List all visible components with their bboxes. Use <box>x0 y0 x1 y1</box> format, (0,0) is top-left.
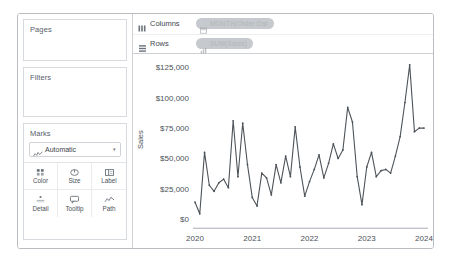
data-point[interactable] <box>356 176 358 178</box>
marks-card-title: Marks <box>24 124 126 142</box>
rows-shelf-label: Rows <box>150 39 196 48</box>
data-point[interactable] <box>414 131 416 133</box>
marks-path-button[interactable]: Path <box>92 190 126 217</box>
data-point[interactable] <box>208 184 210 186</box>
data-point[interactable] <box>352 121 354 123</box>
marks-size-button[interactable]: Size <box>58 163 92 190</box>
x-axis-tick-label: 2020 <box>186 234 204 243</box>
data-point[interactable] <box>366 166 368 168</box>
data-point[interactable] <box>304 195 306 197</box>
y-axis-tick-label: $25,000 <box>160 185 189 194</box>
rows-pill-sum-sales[interactable]: SUM(Sales) <box>196 38 253 49</box>
measure-icon <box>200 40 207 47</box>
x-axis-tick-label: 2023 <box>358 234 376 243</box>
mark-type-dropdown[interactable]: Automatic ▾ <box>29 142 121 157</box>
line-chart: $0$25,000$50,000$75,000$100,000$125,000 … <box>133 54 433 248</box>
data-point[interactable] <box>199 213 201 215</box>
data-point[interactable] <box>375 176 377 178</box>
line-chart-icon <box>33 145 43 154</box>
marks-label-button[interactable]: Label <box>92 163 126 190</box>
data-point[interactable] <box>332 143 334 145</box>
data-point[interactable] <box>266 177 268 179</box>
marks-color-button[interactable]: Color <box>24 163 58 190</box>
data-point[interactable] <box>237 176 239 178</box>
columns-pill-month-order-date[interactable]: MONTH(Order Dat <box>196 18 274 29</box>
chevron-down-icon: ▾ <box>113 147 117 152</box>
columns-shelf[interactable]: Columns MONTH(Order Dat <box>133 14 433 34</box>
columns-shelf-icon <box>138 19 147 28</box>
data-point[interactable] <box>394 155 396 157</box>
y-axis-tick-label: $125,000 <box>156 63 190 72</box>
data-point[interactable] <box>223 178 225 180</box>
detail-icon <box>34 195 48 205</box>
filters-card[interactable]: Filters <box>23 67 127 117</box>
color-icon <box>34 167 48 177</box>
data-point[interactable] <box>290 176 292 178</box>
data-point[interactable] <box>194 201 196 203</box>
mark-type-label: Automatic <box>45 146 113 153</box>
data-point[interactable] <box>261 172 263 174</box>
y-axis-title: Sales <box>136 130 145 149</box>
marks-card-empty-space <box>24 217 126 239</box>
y-axis-tick-label: $75,000 <box>160 124 189 133</box>
y-axis: $0$25,000$50,000$75,000$100,000$125,000 <box>156 63 190 224</box>
data-point[interactable] <box>328 162 330 164</box>
chart-series-line <box>194 64 425 215</box>
data-point[interactable] <box>390 172 392 174</box>
data-point[interactable] <box>380 170 382 172</box>
marks-buttons-grid: Color Size <box>24 162 126 217</box>
columns-pill-text: MONTH(Order Dat <box>210 20 268 27</box>
data-point[interactable] <box>423 127 425 129</box>
data-point[interactable] <box>418 127 420 129</box>
rows-shelf-icon <box>138 39 147 48</box>
data-point[interactable] <box>385 168 387 170</box>
data-point[interactable] <box>204 151 206 153</box>
y-axis-tick-label: $0 <box>180 215 189 224</box>
data-point[interactable] <box>275 164 277 166</box>
data-point[interactable] <box>399 136 401 138</box>
tooltip-icon <box>68 195 82 205</box>
data-point[interactable] <box>232 120 234 122</box>
data-point[interactable] <box>323 177 325 179</box>
data-point[interactable] <box>251 196 253 198</box>
data-point[interactable] <box>270 194 272 196</box>
data-point[interactable] <box>299 166 301 168</box>
rows-shelf[interactable]: Rows SUM(Sales) <box>133 34 433 54</box>
x-axis-tick-label: 2022 <box>301 234 319 243</box>
x-axis-tick-label: 2024 <box>415 234 433 243</box>
data-point[interactable] <box>280 182 282 184</box>
data-point[interactable] <box>213 190 215 192</box>
tableau-worksheet-window: Pages Filters Marks Automatic ▾ <box>17 13 434 249</box>
data-point[interactable] <box>294 126 296 128</box>
size-icon <box>68 167 82 177</box>
data-point[interactable] <box>285 155 287 157</box>
data-point[interactable] <box>242 122 244 124</box>
data-point[interactable] <box>361 204 363 206</box>
pages-card-title: Pages <box>24 20 126 34</box>
label-icon <box>102 167 116 177</box>
data-point[interactable] <box>247 164 249 166</box>
data-point[interactable] <box>256 205 258 207</box>
data-point[interactable] <box>337 157 339 159</box>
series-line <box>195 65 424 214</box>
columns-shelf-label: Columns <box>150 19 196 28</box>
marks-detail-button[interactable]: Detail <box>24 190 58 217</box>
data-point[interactable] <box>227 187 229 189</box>
data-point[interactable] <box>371 151 373 153</box>
data-point[interactable] <box>404 101 406 103</box>
data-point[interactable] <box>342 149 344 151</box>
pages-card[interactable]: Pages <box>23 19 127 61</box>
filters-card-title: Filters <box>24 68 126 82</box>
data-point[interactable] <box>318 154 320 156</box>
marks-tooltip-button[interactable]: Tooltip <box>58 190 92 217</box>
data-point[interactable] <box>218 182 220 184</box>
visualization-canvas[interactable]: $0$25,000$50,000$75,000$100,000$125,000 … <box>133 54 433 248</box>
data-point[interactable] <box>309 181 311 183</box>
data-point[interactable] <box>347 106 349 108</box>
data-point[interactable] <box>313 168 315 170</box>
marks-card: Marks Automatic ▾ <box>23 123 127 240</box>
marks-color-label: Color <box>33 178 48 184</box>
data-point[interactable] <box>409 64 411 66</box>
marks-tooltip-label: Tooltip <box>65 206 83 212</box>
y-axis-tick-label: $50,000 <box>160 154 189 163</box>
